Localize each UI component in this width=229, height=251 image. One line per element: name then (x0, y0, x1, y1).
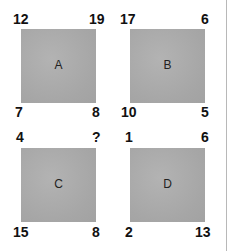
square-a: A (21, 29, 96, 103)
square-b-bottom-left-number: 10 (121, 105, 137, 119)
square-a-top-right-number: 19 (89, 12, 105, 26)
square-b-bottom-right-number: 5 (201, 105, 209, 119)
square-c: C (21, 148, 96, 222)
square-c-bottom-left-number: 15 (13, 225, 29, 239)
square-d-bottom-right-number: 13 (195, 225, 211, 239)
square-a-top-left-number: 12 (13, 12, 29, 26)
square-d-top-left-number: 1 (125, 130, 133, 144)
square-b-top-right-number: 6 (201, 12, 209, 26)
square-a-bottom-right-number: 8 (92, 105, 100, 119)
square-d-bottom-left-number: 2 (125, 225, 133, 239)
square-d-top-right-number: 6 (201, 130, 209, 144)
square-a-bottom-left-number: 7 (15, 105, 23, 119)
square-c-bottom-right-number: 8 (92, 225, 100, 239)
square-b-top-left-number: 17 (120, 12, 136, 26)
right-border-line (226, 0, 227, 251)
square-d-label: D (130, 177, 205, 191)
square-c-top-right-number: ? (92, 130, 101, 144)
square-c-label: C (21, 177, 96, 191)
square-b: B (130, 29, 205, 103)
square-b-label: B (130, 58, 205, 72)
square-c-top-left-number: 4 (16, 130, 24, 144)
square-d: D (130, 148, 205, 222)
square-a-label: A (21, 58, 96, 72)
